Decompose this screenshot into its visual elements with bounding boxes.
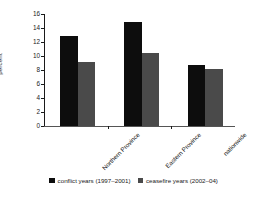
- y-tick-mark: [41, 70, 44, 71]
- bar: [78, 62, 96, 126]
- bar: [142, 53, 160, 126]
- y-tick-mark: [41, 28, 44, 29]
- y-axis-tick-labels: 0246810121416: [24, 14, 40, 126]
- x-category-label: nationwide: [222, 131, 248, 157]
- bar: [205, 69, 223, 126]
- x-category-label: Northern Province: [100, 131, 140, 171]
- bar-chart-figure: percent 0246810121416 Northern ProvinceE…: [0, 0, 267, 198]
- bar: [60, 36, 78, 126]
- y-tick-mark: [41, 56, 44, 57]
- legend-label: ceasefire years (2002–04): [146, 177, 218, 184]
- legend-swatch-icon: [138, 178, 144, 184]
- y-tick-mark: [41, 98, 44, 99]
- plot-area: [44, 14, 235, 126]
- chart-legend: conflict years (1997–2001)ceasefire year…: [0, 177, 267, 184]
- bar: [124, 22, 142, 126]
- y-tick-label: 8: [36, 67, 40, 73]
- y-tick-label: 2: [36, 109, 40, 115]
- y-tick-label: 6: [36, 81, 40, 87]
- x-axis-line: [44, 126, 235, 127]
- x-tick-mark: [108, 126, 109, 129]
- legend-item: ceasefire years (2002–04): [138, 177, 218, 184]
- x-category-label: Eastern Province: [163, 131, 201, 169]
- legend-item: conflict years (1997–2001): [49, 177, 130, 184]
- y-tick-label: 12: [33, 39, 40, 45]
- y-tick-mark: [41, 14, 44, 15]
- y-axis-label: percent: [0, 36, 3, 92]
- y-tick-label: 10: [33, 53, 40, 59]
- y-tick-label: 0: [36, 123, 40, 129]
- y-tick-mark: [41, 42, 44, 43]
- legend-label: conflict years (1997–2001): [58, 177, 131, 184]
- y-tick-label: 4: [36, 95, 40, 101]
- legend-swatch-icon: [49, 178, 55, 184]
- y-tick-mark: [41, 126, 44, 127]
- y-tick-mark: [41, 84, 44, 85]
- y-tick-mark: [41, 112, 44, 113]
- y-tick-label: 16: [33, 11, 40, 17]
- bar: [188, 65, 206, 126]
- y-tick-label: 14: [33, 25, 40, 31]
- x-tick-mark: [171, 126, 172, 129]
